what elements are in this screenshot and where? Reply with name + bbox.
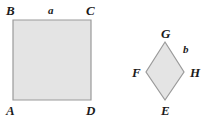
diamond-EFGH-shape — [146, 42, 184, 100]
vertex-label-c-square: C — [86, 4, 95, 17]
vertex-label-e-diamond: E — [161, 104, 170, 117]
vertex-label-d-square: D — [86, 104, 95, 117]
vertex-label-b-square: B — [6, 4, 15, 17]
vertex-label-f-diamond: F — [132, 66, 141, 79]
shapes-canvas — [0, 0, 210, 123]
geometry-figure: B C A D a G H E F b — [0, 0, 210, 123]
vertex-label-h-diamond: H — [190, 66, 200, 79]
vertex-label-a-square: A — [6, 104, 15, 117]
side-label-a: a — [48, 5, 54, 16]
vertex-label-g-diamond: G — [161, 27, 170, 40]
square-ABCD-shape — [13, 20, 91, 100]
side-label-b: b — [183, 44, 189, 55]
